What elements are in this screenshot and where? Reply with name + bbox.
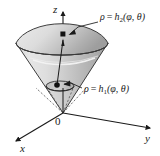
z-axis-label: z	[52, 3, 58, 15]
x-axis-label: x	[19, 142, 25, 154]
inner-point	[54, 82, 60, 88]
y-axis-label: y	[144, 132, 150, 144]
origin-label: 0	[55, 115, 61, 127]
y-axis: y	[63, 113, 150, 144]
figure-canvas: z	[0, 0, 160, 156]
upper-equals: =	[107, 11, 113, 22]
upper-equation-label: ρ=h2(φ, θ)	[99, 11, 146, 24]
upper-args: (φ, θ)	[123, 11, 146, 23]
spherical-coordinates-solid-figure: z	[0, 0, 160, 156]
lower-args: (φ, θ)	[107, 83, 130, 95]
y-axis-line	[63, 113, 150, 128]
upper-rho: ρ	[99, 11, 105, 22]
lower-equation-label: ρ=h1(φ, θ)	[83, 83, 130, 96]
outer-point	[60, 32, 65, 37]
lower-rho: ρ	[83, 83, 89, 94]
lower-equals: =	[91, 83, 97, 94]
